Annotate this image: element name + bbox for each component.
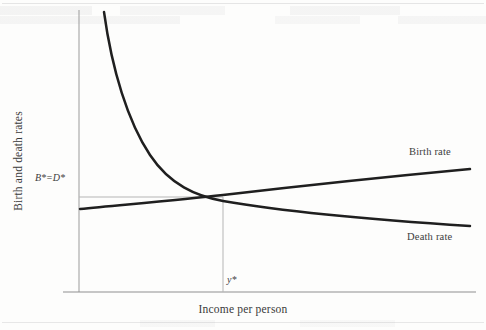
plot-area (0, 0, 486, 330)
y-axis-title: Birth and death rates (12, 96, 24, 226)
x-axis-title: Income per person (0, 303, 486, 315)
death-rate-curve (104, 12, 470, 226)
death-rate-series-label: Death rate (407, 231, 452, 242)
birth-rate-series-label: Birth rate (409, 146, 451, 157)
equilibrium-income-label: y* (227, 274, 236, 285)
equilibrium-rate-label: B*=D* (35, 172, 65, 183)
birth-rate-curve (80, 169, 470, 209)
figure-canvas: Birth and death rates Income per person … (0, 0, 486, 330)
